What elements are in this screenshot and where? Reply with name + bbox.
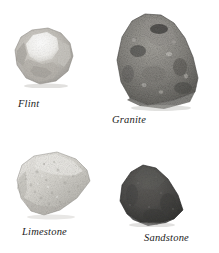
specimen-image-granite [114, 12, 202, 114]
specimen-image-limestone [13, 150, 94, 220]
rock-specimen-figure: Flint [0, 0, 219, 253]
specimen-label-limestone: Limestone [22, 227, 67, 238]
specimen-label-flint: Flint [18, 99, 39, 110]
specimen-label-sandstone: Sandstone [144, 233, 189, 244]
specimen-label-granite: Granite [112, 115, 146, 126]
specimen-image-flint [12, 26, 78, 88]
specimen-image-sandstone [116, 163, 187, 227]
